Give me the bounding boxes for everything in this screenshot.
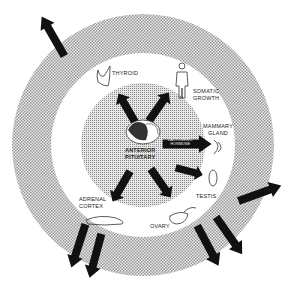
label-anterior-pituitary: ANTERIORPITUITARY [125,147,155,160]
label-testis: TESTIS [196,193,216,200]
label-mammary-gland: MAMMARYGLAND [203,123,233,136]
label-somatic-growth: SOMATICGROWTH [193,88,219,101]
pituitary-gland-icon [126,120,160,144]
label-ovary: OVARY [150,223,170,230]
label-thyroid: THYROID [112,70,138,77]
diagram-canvas [0,0,284,290]
label-lactogenic-hormone: LACTOGENICHORMONE [168,138,193,146]
label-adrenal-cortex: ADRENALCORTEX [79,196,106,209]
